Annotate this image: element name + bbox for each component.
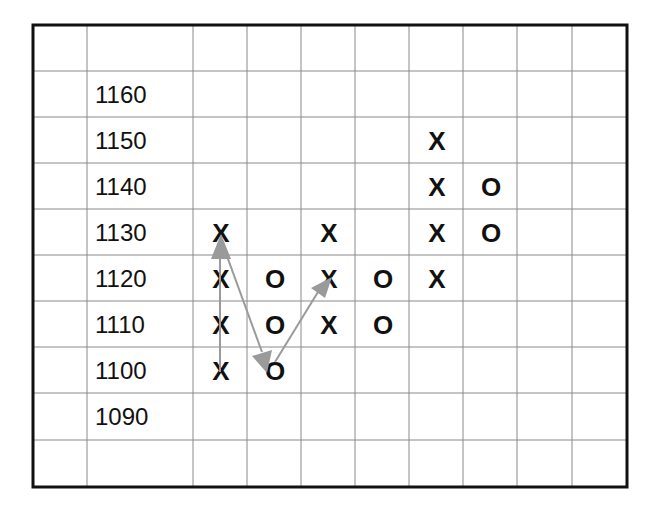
price-label-1100: 1100	[95, 357, 147, 384]
price-label-1130: 1130	[95, 219, 147, 246]
x-mark: X	[320, 218, 338, 248]
o-mark: O	[265, 264, 285, 294]
o-mark: O	[481, 172, 501, 202]
o-mark: O	[481, 218, 501, 248]
x-mark: X	[212, 264, 230, 294]
price-label-1110: 1110	[95, 311, 145, 338]
x-mark: X	[428, 264, 446, 294]
x-mark: X	[428, 172, 446, 202]
price-label-1090: 1090	[95, 403, 148, 430]
price-label-1150: 1150	[95, 127, 147, 154]
price-label-1140: 1140	[95, 173, 147, 200]
column-6-o: O O	[481, 172, 501, 248]
arrow-up-column-1	[211, 234, 231, 372]
x-mark: X	[212, 356, 230, 386]
price-label-1120: 1120	[95, 265, 147, 292]
point-and-figure-chart: 1160 1150 1140 1130 1120 1110 1100 1090 …	[0, 0, 654, 506]
price-label-1160: 1160	[95, 81, 147, 108]
x-mark: X	[212, 310, 230, 340]
x-mark: X	[320, 310, 338, 340]
o-mark: O	[373, 264, 393, 294]
column-5-x: X X X X	[428, 126, 446, 294]
x-mark: X	[428, 126, 446, 156]
column-4-o: O O	[373, 264, 393, 340]
x-mark: X	[428, 218, 446, 248]
o-mark: O	[373, 310, 393, 340]
o-mark: O	[265, 310, 285, 340]
